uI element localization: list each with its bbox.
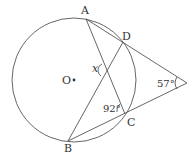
angle-label-c: 92°	[103, 103, 121, 114]
label-c: C	[127, 116, 135, 129]
label-b: B	[64, 142, 72, 152]
geometry-diagram: A D C B O 57° 92° x	[0, 0, 188, 152]
secant-pb	[68, 83, 187, 141]
center-dot	[73, 79, 76, 82]
label-d: D	[122, 30, 131, 43]
secant-pa	[86, 19, 187, 83]
angle-label-external: 57°	[157, 78, 175, 89]
angle-arc-external	[175, 77, 177, 89]
angle-label-x: x	[92, 62, 99, 75]
label-o: O	[62, 74, 71, 87]
label-a: A	[80, 4, 90, 17]
angle-arc-x	[98, 64, 102, 76]
